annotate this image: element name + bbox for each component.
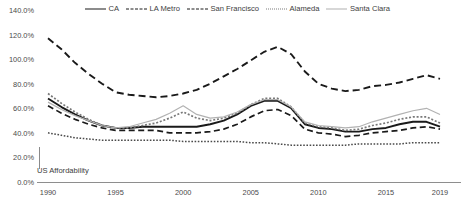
series-line-alameda — [48, 94, 440, 131]
plot-area — [0, 0, 461, 212]
series-line-us-affordability — [48, 133, 440, 145]
us-affordability-annotation: US Affordability — [37, 166, 89, 175]
series-line-la-metro — [48, 38, 440, 97]
chart-container: CA LA Metro San Francisco Alameda Santa … — [0, 0, 461, 212]
